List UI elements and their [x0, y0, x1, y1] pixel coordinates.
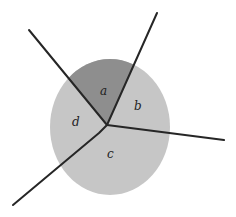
region-label-c: c	[107, 147, 114, 161]
region-label-b: b	[134, 99, 142, 113]
region-label-d: d	[72, 115, 80, 129]
partition-diagram: abcd	[0, 0, 236, 217]
diagram-canvas: abcd	[0, 0, 236, 217]
region-label-a: a	[100, 84, 107, 98]
